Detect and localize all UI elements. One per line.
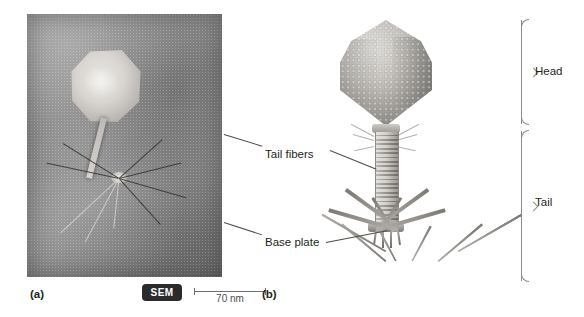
label-tail-fibers: Tail fibers <box>265 148 314 160</box>
sem-modality-badge: SEM <box>142 284 182 301</box>
whisker <box>354 146 374 151</box>
label-base-plate: Base plate <box>265 236 319 248</box>
base-plate-leader-left <box>224 222 262 235</box>
tail-fiber-lower <box>411 225 432 262</box>
base-plate-spike <box>397 231 401 245</box>
scale-bar-label: 70 nm <box>194 293 266 304</box>
scale-bar: 70 nm <box>194 288 266 304</box>
figure-bacteriophage-structure: Tail fibers Base plate Head Tail (a) SEM… <box>0 0 584 317</box>
tail-fiber-lower <box>437 223 483 263</box>
label-head: Head <box>535 65 563 77</box>
phage-3d-illustration <box>296 14 512 277</box>
tail-fiber-lower <box>457 213 523 253</box>
panel-tag-b: (b) <box>262 288 277 300</box>
label-tail: Tail <box>535 196 552 208</box>
capsomere-texture <box>340 20 432 126</box>
brace-tail <box>521 131 532 281</box>
panel-tag-a: (a) <box>30 288 44 300</box>
sem-micrograph-image <box>27 14 222 277</box>
scale-bar-line <box>194 291 266 292</box>
base-plate-spike <box>390 231 392 248</box>
capsid-head <box>340 20 432 126</box>
micrograph-vignette <box>27 14 222 277</box>
brace-head <box>521 20 532 124</box>
tail-fibers-leader-left <box>224 134 263 147</box>
